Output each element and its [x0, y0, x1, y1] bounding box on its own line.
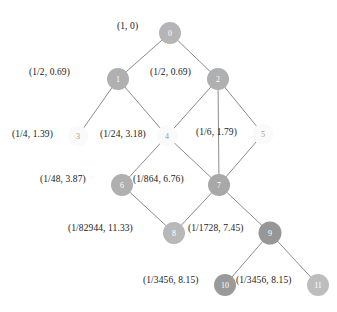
graph-node-7[interactable]: 7 — [208, 174, 230, 196]
graph-edge — [226, 192, 262, 226]
graph-edge — [224, 87, 257, 127]
graph-node-2[interactable]: 2 — [207, 68, 229, 90]
graph-canvas: 01234567891011 — [0, 0, 337, 312]
node-id-text: 4 — [165, 132, 169, 141]
node-annotation-3: (1/4, 1.39) — [12, 130, 53, 140]
graph-node-0[interactable]: 0 — [159, 22, 181, 44]
graph-edge — [232, 241, 264, 278]
graph-edge — [125, 87, 161, 129]
node-annotation-6: (1/48, 3.87) — [40, 175, 86, 185]
graph-figure: 01234567891011 (1, 0)(1/2, 0.69)(1/2, 0.… — [0, 0, 337, 312]
graph-edge — [173, 86, 211, 128]
node-id-text: 1 — [116, 75, 120, 84]
graph-edge — [83, 87, 112, 128]
graph-node-8[interactable]: 8 — [163, 222, 185, 244]
node-annotation-1: (1/2, 0.69) — [29, 68, 70, 78]
node-id-text: 8 — [172, 229, 176, 238]
graph-node-6[interactable]: 6 — [111, 174, 133, 196]
graph-edge — [181, 192, 212, 225]
node-id-text: 6 — [120, 181, 124, 190]
node-id-text: 3 — [76, 132, 80, 141]
node-id-text: 5 — [261, 130, 265, 139]
node-id-text: 10 — [221, 281, 229, 290]
node-annotation-4: (1/24, 3.18) — [100, 130, 146, 140]
graph-node-10[interactable]: 10 — [214, 274, 236, 296]
graph-edge — [129, 192, 166, 226]
graph-edge — [129, 143, 161, 178]
graph-node-4[interactable]: 4 — [157, 126, 178, 147]
node-annotation-5: (1/6, 1.79) — [196, 128, 237, 138]
node-id-text: 11 — [314, 281, 322, 290]
graph-node-11[interactable]: 11 — [307, 274, 329, 296]
node-id-text: 2 — [216, 75, 220, 84]
graph-edge — [226, 141, 257, 177]
node-annotation-0: (1, 0) — [117, 22, 138, 32]
graph-node-5[interactable]: 5 — [253, 124, 274, 145]
graph-node-1[interactable]: 1 — [107, 68, 129, 90]
node-annotation-9: (1/1728, 7.45) — [188, 224, 244, 234]
node-annotation-2: (1/2, 0.69) — [150, 68, 191, 78]
node-id-text: 0 — [168, 29, 172, 38]
node-annotation-8: (1/82944, 11.33) — [68, 224, 133, 234]
node-annotation-7: (1/864, 6.76) — [133, 175, 184, 185]
graph-node-3[interactable]: 3 — [68, 126, 89, 147]
node-annotation-11: (1/3456, 8.15) — [236, 276, 292, 286]
node-id-text: 7 — [217, 181, 221, 190]
node-annotation-10: (1/3456, 8.15) — [143, 276, 199, 286]
graph-edge — [277, 241, 311, 278]
graph-node-9[interactable]: 9 — [259, 222, 282, 245]
graph-edge — [174, 143, 212, 179]
node-id-text: 9 — [268, 229, 272, 238]
